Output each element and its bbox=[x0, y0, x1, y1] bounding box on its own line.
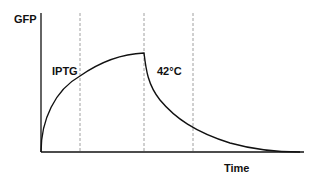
heat-shift-label: 42°C bbox=[157, 65, 182, 77]
iptg-label: IPTG bbox=[52, 65, 78, 77]
x-axis-label: Time bbox=[224, 162, 249, 174]
gfp-time-diagram: GFP Time IPTG 42°C bbox=[0, 0, 318, 176]
y-axis-label: GFP bbox=[14, 13, 37, 25]
